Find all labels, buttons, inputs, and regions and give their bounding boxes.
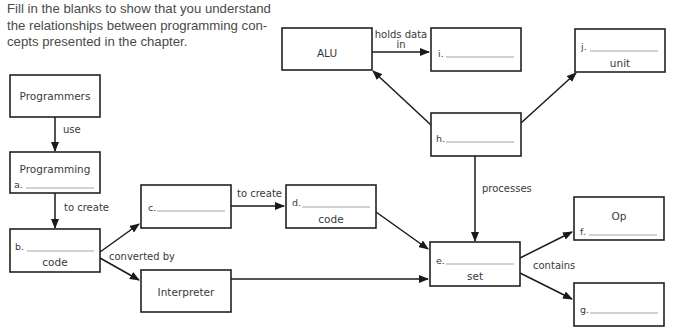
node-interpreter: Interpreter <box>141 270 231 312</box>
node-b: b. code <box>10 229 100 272</box>
node-e: e. set <box>430 242 520 286</box>
edge-h-alu <box>373 71 431 125</box>
blank-i-label: i. <box>438 48 444 59</box>
blank-g-label: g. <box>580 304 589 315</box>
edge-h-j <box>521 73 576 123</box>
node-h: h. <box>431 113 521 156</box>
edge-label-contains: contains <box>533 260 575 271</box>
blank-c-label: c. <box>148 202 156 213</box>
blank-d-label: d. <box>292 197 301 208</box>
node-i: i. <box>431 28 521 71</box>
node-f-title: Op <box>612 210 627 222</box>
edge-e-g <box>520 273 572 299</box>
node-alu: ALU <box>282 28 372 70</box>
blank-b-label: b. <box>15 241 24 252</box>
node-c: c. <box>141 185 231 228</box>
node-alu-title: ALU <box>317 47 337 59</box>
blank-a-label: a. <box>14 179 23 190</box>
edge-b-c <box>100 224 139 252</box>
blank-h-label: h. <box>436 133 445 144</box>
node-f: Op f. <box>574 197 664 240</box>
node-interpreter-title: Interpreter <box>158 286 215 298</box>
node-programmers: Programmers <box>10 75 100 117</box>
blank-e-label: e. <box>436 255 445 266</box>
edge-e-f <box>520 232 572 258</box>
blank-f-label: f. <box>580 226 586 237</box>
edge-label-holds-data-in: in <box>396 39 405 50</box>
edge-label-to-create-1: to create <box>64 202 109 213</box>
node-g: g. <box>574 283 664 326</box>
node-d: d. code <box>286 185 376 228</box>
edge-label-processes: processes <box>482 183 532 194</box>
node-programming-title: Programming <box>20 163 91 175</box>
node-j-suffix: unit <box>610 57 630 69</box>
node-programmers-title: Programmers <box>20 90 91 102</box>
edge-label-use: use <box>63 124 81 135</box>
node-j: j. unit <box>575 29 665 72</box>
blank-j-label: j. <box>580 41 587 52</box>
edge-label-converted-by: converted by <box>109 251 175 262</box>
node-d-suffix: code <box>318 213 343 225</box>
node-b-suffix: code <box>42 256 67 268</box>
concept-map: use to create converted by to create hol… <box>0 0 677 333</box>
edge-label-to-create-2: to create <box>237 188 282 199</box>
node-programming: Programming a. <box>10 152 100 193</box>
node-e-suffix: set <box>467 270 483 282</box>
edge-d-e <box>376 212 428 249</box>
